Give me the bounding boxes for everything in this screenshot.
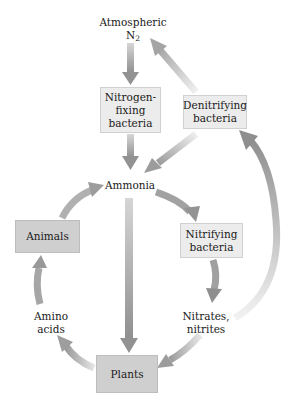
node-amino-acids: Amino acids (24, 310, 78, 336)
amino-line2: acids (24, 323, 78, 336)
amino-line1: Amino (24, 310, 78, 323)
n2-subscript: 2 (135, 34, 140, 43)
nitrates-line2: nitrites (178, 323, 234, 336)
denitrifying-line2: bacteria (183, 112, 247, 125)
arrow-ammonia-to-plants (120, 198, 138, 353)
nitrogen-fixing-line1: Nitrogen- (105, 91, 156, 104)
node-plants: Plants (96, 355, 158, 393)
nitrifying-line1: Nitrifying (186, 228, 238, 241)
node-ammonia: Ammonia (100, 179, 160, 192)
arrow-nitrates-to-plants (157, 335, 200, 368)
arrow-denitrifying-to-ammonia (144, 134, 196, 173)
node-nitrates-nitrites: Nitrates, nitrites (178, 310, 234, 336)
nitrates-line1: Nitrates, (178, 310, 234, 323)
arrows-layer (0, 0, 290, 407)
nitrogen-fixing-line2: fixing (105, 104, 156, 117)
arrow-denitrifying-to-n2 (150, 38, 196, 92)
node-animals: Animals (15, 220, 80, 253)
arrow-nitrifying-to-nitrates (206, 260, 222, 303)
arrow-n2-to-nitrogen-fixing (122, 43, 139, 85)
arrow-nitrogen-fixing-to-ammonia (122, 134, 139, 170)
node-nitrogen-fixing-bacteria: Nitrogen- fixing bacteria (100, 87, 161, 133)
plants-label: Plants (110, 368, 143, 381)
nitrifying-line2: bacteria (186, 241, 238, 254)
animals-label: Animals (26, 230, 69, 243)
arrow-animals-to-ammonia (62, 182, 104, 218)
node-atmospheric-n2: Atmospheric N2 (98, 16, 168, 42)
n2-label: N2 (98, 29, 168, 42)
arrow-ammonia-to-nitrifying (156, 192, 200, 222)
n2-symbol: N (126, 29, 135, 41)
nitrogen-fixing-line3: bacteria (105, 117, 156, 130)
node-denitrifying-bacteria: Denitrifying bacteria (183, 95, 247, 129)
arrow-plants-to-amino-acids (57, 335, 94, 368)
node-nitrifying-bacteria: Nitrifying bacteria (180, 223, 243, 258)
arrow-amino-acids-to-animals (32, 255, 47, 304)
atmospheric-label: Atmospheric (98, 16, 168, 29)
denitrifying-line1: Denitrifying (183, 99, 247, 112)
